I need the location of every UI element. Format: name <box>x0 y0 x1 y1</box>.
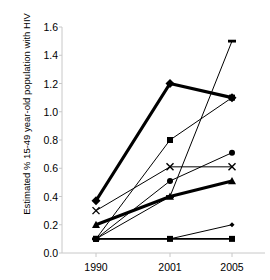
data-point-series-8-2001 <box>167 236 173 242</box>
data-point-series-7-2005 <box>230 222 235 227</box>
chart-container: Estimated % 15-49 year-old population wi… <box>0 0 270 280</box>
data-point-series-8-2005 <box>229 236 235 242</box>
plot-area <box>0 0 270 280</box>
series-line-series-5 <box>96 167 232 211</box>
data-point-series-2-2001 <box>167 137 173 143</box>
data-point-series-2-2005 <box>229 95 235 101</box>
data-point-series-5-1990 <box>93 207 100 214</box>
x-axis-tick-label: 2005 <box>207 262 257 273</box>
data-point-series-4-2005 <box>229 150 235 156</box>
series-line-series-3 <box>96 41 232 239</box>
series-line-series-6 <box>96 181 232 225</box>
series-line-series-1 <box>96 84 232 201</box>
x-axis-tick-label: 1990 <box>71 262 121 273</box>
series-markers <box>92 40 237 242</box>
series-lines <box>96 41 232 239</box>
axis-lines <box>59 27 265 257</box>
data-point-series-4-2001 <box>167 178 173 184</box>
x-axis-tick-label: 2001 <box>145 262 195 273</box>
data-point-series-8-1990 <box>93 236 99 242</box>
data-point-series-3-2005 <box>228 40 236 43</box>
